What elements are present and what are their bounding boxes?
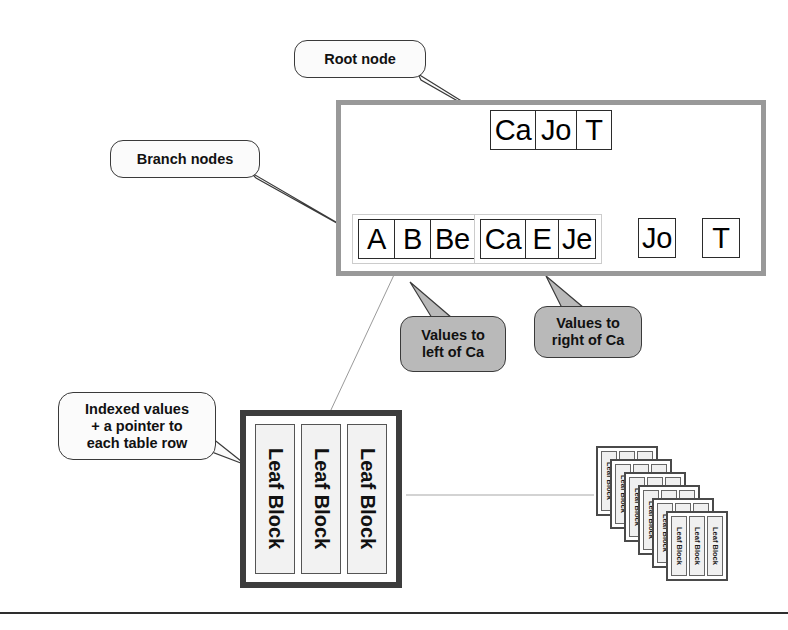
branch-left-cell-2[interactable]: Be (430, 219, 475, 259)
branch-node-jo-cell[interactable]: Jo (638, 218, 676, 258)
branch-right-cell-1[interactable]: E (525, 219, 559, 259)
edge-branch-to-leaf (330, 262, 400, 412)
leaf-block-mini-label: Leaf Block (675, 527, 684, 565)
callout-root-node: Root node (294, 40, 426, 78)
branch-left-cell-1[interactable]: B (394, 219, 431, 259)
leaf-block-mini-label: Leaf Block (711, 527, 720, 565)
root-cell-1[interactable]: Jo (535, 110, 577, 150)
branch-node-t[interactable]: T (702, 218, 740, 258)
leaf-block-label: Leaf Block (356, 448, 379, 549)
root-cell-0[interactable]: Ca (490, 110, 536, 150)
branch-right-cell-0[interactable]: Ca (480, 219, 526, 259)
bottom-divider (0, 612, 788, 614)
root-cell-2[interactable]: T (576, 110, 612, 150)
leaf-block-stack[interactable]: Leaf BlockLeaf BlockLeaf BlockLeaf Block… (596, 446, 746, 592)
leaf-block[interactable]: Leaf Block (301, 424, 341, 574)
callout-left-ca-line-1: Values to (421, 327, 485, 344)
callout-indexed-line-1: Indexed values (85, 401, 189, 418)
callout-indexed-values: Indexed values + a pointer to each table… (58, 392, 216, 460)
branch-node-jo[interactable]: Jo (638, 218, 676, 258)
callout-left-ca-line-2: left of Ca (422, 344, 484, 361)
leaf-block[interactable]: Leaf Block (255, 424, 295, 574)
branch-left-cell-0[interactable]: A (358, 219, 395, 259)
diagram-canvas: Ca Jo T A B Be Ca E Je Jo T Root node Br… (0, 0, 788, 630)
callout-right-ca-line-2: right of Ca (552, 332, 625, 349)
branch-node-t-cell[interactable]: T (702, 218, 740, 258)
branch-node-group-left[interactable]: A B Be (352, 214, 481, 264)
leaf-block-label: Leaf Block (264, 448, 287, 549)
callout-indexed-line-2: + a pointer to (91, 418, 182, 435)
leaf-block-mini-label: Leaf Block (693, 527, 702, 565)
leaf-block[interactable]: Leaf Block (347, 424, 387, 574)
branch-right-cell-2[interactable]: Je (558, 219, 596, 259)
leaf-block-label: Leaf Block (310, 448, 333, 549)
callout-values-left-of-ca: Values to left of Ca (400, 316, 506, 372)
leaf-block-mini[interactable]: Leaf Block (707, 516, 723, 576)
branch-node-group-right[interactable]: Ca E Je (474, 214, 602, 264)
leaf-block-mini[interactable]: Leaf Block (671, 516, 687, 576)
left-ca-callout-tail (410, 282, 452, 318)
leaf-block-stack-group[interactable]: Leaf BlockLeaf BlockLeaf Block (666, 511, 728, 581)
callout-indexed-line-3: each table row (87, 435, 188, 452)
right-ca-callout-tail (546, 276, 584, 308)
callout-root-node-label: Root node (324, 51, 396, 68)
callout-branch-nodes: Branch nodes (110, 140, 260, 178)
callout-branch-nodes-label: Branch nodes (137, 151, 234, 168)
callout-values-right-of-ca: Values to right of Ca (534, 306, 642, 358)
leaf-block-mini[interactable]: Leaf Block (689, 516, 705, 576)
callout-right-ca-line-1: Values to (556, 315, 620, 332)
leaf-block-container[interactable]: Leaf Block Leaf Block Leaf Block (240, 410, 402, 588)
root-node[interactable]: Ca Jo T (490, 110, 612, 150)
